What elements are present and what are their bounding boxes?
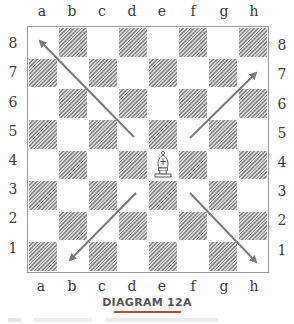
square-c1 xyxy=(89,242,117,271)
file-label-e: e xyxy=(152,3,172,19)
square-f6 xyxy=(179,89,207,118)
square-e5 xyxy=(149,120,177,149)
square-b3 xyxy=(58,180,88,211)
square-e6 xyxy=(148,88,178,119)
square-d4 xyxy=(119,151,147,180)
square-g3 xyxy=(209,181,237,210)
square-h1 xyxy=(238,241,268,272)
square-b2 xyxy=(59,212,87,241)
file-label-c: c xyxy=(92,3,112,19)
file-label-g: g xyxy=(214,278,234,294)
square-f5 xyxy=(178,119,208,150)
file-label-h: h xyxy=(244,278,264,294)
square-c7 xyxy=(89,59,117,88)
rank-label-1: 1 xyxy=(3,240,23,256)
rank-label-7: 7 xyxy=(3,64,23,80)
square-g6 xyxy=(208,88,238,119)
rank-label-7: 7 xyxy=(272,66,292,82)
rank-label-8: 8 xyxy=(272,37,292,53)
rank-label-5: 5 xyxy=(3,123,23,139)
square-g4 xyxy=(208,150,238,181)
square-c8 xyxy=(88,27,118,58)
rank-label-3: 3 xyxy=(272,183,292,199)
square-d3 xyxy=(118,180,148,211)
square-a1 xyxy=(29,242,57,271)
file-label-b: b xyxy=(62,3,82,19)
square-d5 xyxy=(118,119,148,150)
square-a5 xyxy=(29,120,57,149)
file-label-d: d xyxy=(122,3,142,19)
square-h7 xyxy=(238,58,268,89)
square-d7 xyxy=(118,58,148,89)
square-a6 xyxy=(28,88,58,119)
file-label-a: a xyxy=(32,3,52,19)
square-c5 xyxy=(89,120,117,149)
square-b6 xyxy=(59,89,87,118)
square-h2 xyxy=(239,212,267,241)
file-label-g: g xyxy=(214,3,234,19)
square-b1 xyxy=(58,241,88,272)
square-c4 xyxy=(88,150,118,181)
file-label-h: h xyxy=(244,3,264,19)
file-label-c: c xyxy=(92,278,112,294)
square-e8 xyxy=(148,27,178,58)
cropped-text-line xyxy=(8,318,218,322)
square-g1 xyxy=(209,242,237,271)
square-e7 xyxy=(149,59,177,88)
square-h5 xyxy=(238,119,268,150)
square-a3 xyxy=(29,181,57,210)
square-d1 xyxy=(118,241,148,272)
rank-label-3: 3 xyxy=(3,181,23,197)
square-e4 xyxy=(148,150,178,181)
square-f3 xyxy=(178,180,208,211)
file-label-b: b xyxy=(62,278,82,294)
square-e1 xyxy=(149,242,177,271)
square-c2 xyxy=(88,211,118,242)
square-f7 xyxy=(178,58,208,89)
square-a4 xyxy=(28,150,58,181)
file-label-a: a xyxy=(31,278,51,294)
square-c6 xyxy=(88,88,118,119)
square-b8 xyxy=(59,28,87,57)
square-e3 xyxy=(149,181,177,210)
square-c3 xyxy=(89,181,117,210)
square-h6 xyxy=(239,89,267,118)
rank-label-8: 8 xyxy=(3,35,23,51)
square-h8 xyxy=(239,28,267,57)
file-label-d: d xyxy=(122,278,142,294)
file-label-f: f xyxy=(183,3,203,19)
rank-label-4: 4 xyxy=(272,154,292,170)
square-b4 xyxy=(59,151,87,180)
square-f4 xyxy=(179,151,207,180)
chess-board xyxy=(27,26,269,273)
rank-label-2: 2 xyxy=(3,210,23,226)
square-b7 xyxy=(58,58,88,89)
square-a8 xyxy=(28,27,58,58)
rank-label-1: 1 xyxy=(272,242,292,258)
square-g2 xyxy=(208,211,238,242)
square-f8 xyxy=(179,28,207,57)
rank-label-6: 6 xyxy=(272,96,292,112)
square-d8 xyxy=(119,28,147,57)
square-d2 xyxy=(119,212,147,241)
file-label-f: f xyxy=(183,278,203,294)
square-d6 xyxy=(119,89,147,118)
file-label-e: e xyxy=(152,278,172,294)
diagram-caption: DIAGRAM 12A xyxy=(0,296,294,309)
square-h4 xyxy=(239,151,267,180)
square-b5 xyxy=(58,119,88,150)
square-h3 xyxy=(238,180,268,211)
rank-label-6: 6 xyxy=(3,94,23,110)
square-g5 xyxy=(209,120,237,149)
square-f2 xyxy=(179,212,207,241)
square-g7 xyxy=(209,59,237,88)
caption-underline xyxy=(114,311,181,313)
rank-label-5: 5 xyxy=(272,125,292,141)
rank-label-2: 2 xyxy=(272,212,292,228)
rank-label-4: 4 xyxy=(3,152,23,168)
square-e2 xyxy=(148,211,178,242)
square-f1 xyxy=(178,241,208,272)
square-a7 xyxy=(29,59,57,88)
square-g8 xyxy=(208,27,238,58)
square-a2 xyxy=(28,211,58,242)
